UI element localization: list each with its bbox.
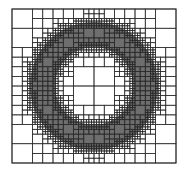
mesh-grid-lines [12,9,176,163]
quadtree-mesh-diagram [0,0,185,171]
